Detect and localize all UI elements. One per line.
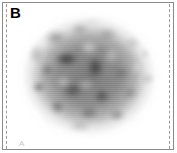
brain-scan-image [3,3,173,149]
figure-panel: B A [0,0,177,153]
orientation-marker-anterior: A [19,139,24,148]
panel-label: B [10,5,21,21]
scan-highlight-regions [9,5,169,147]
reference-line-left [6,4,7,149]
reference-line-right [169,4,170,149]
